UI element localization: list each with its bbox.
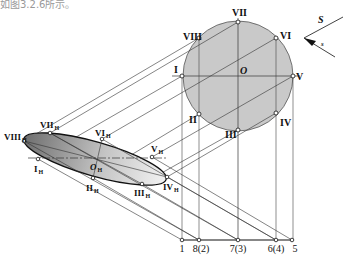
label-circle-V: V [296,71,304,82]
label-ellipse-I: IH [34,164,44,175]
label-baseline-6-4: 6(4) [268,243,285,255]
label-circle-II: II [189,114,197,125]
label-circle-VIII: VIII [183,31,202,42]
label-circle-center-O: O [240,65,247,76]
label-circle-IV: IV [280,117,292,128]
label-baseline-1: 1 [180,243,185,254]
projection-diagram: I II III IV V VI VII VIII O IH IIH IIIH … [0,0,346,261]
label-baseline-7-3: 7(3) [230,243,247,255]
label-ellipse-V: VH [151,144,164,155]
label-ellipse-VIII: VIIIH [4,132,27,143]
label-direction-s: s [320,40,324,48]
label-ellipse-II: IIH [86,183,99,194]
label-baseline-5: 5 [293,243,298,254]
label-circle-VI: VI [280,30,291,41]
arrowhead-icon [304,38,316,46]
label-baseline-8-2: 8(2) [193,243,210,255]
label-direction-S: S [318,14,324,25]
label-ellipse-IV: IVH [163,182,179,193]
label-circle-I: I [174,64,178,75]
label-ellipse-III: IIIH [134,188,151,199]
baseline-points [180,238,294,242]
label-circle-III: III [225,129,237,140]
label-ellipse-VI: VIH [95,128,111,139]
label-circle-VII: VII [232,7,247,18]
